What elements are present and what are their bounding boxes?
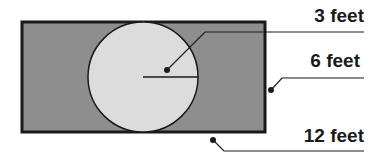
width-label: 6 feet <box>310 51 360 70</box>
width-leader-dot <box>268 87 274 93</box>
radius-label: 3 feet <box>314 6 364 25</box>
length-label: 12 feet <box>304 126 364 145</box>
length-leader-dot <box>210 137 216 143</box>
width-leader-line <box>271 78 364 90</box>
radius-leader-dot <box>164 67 170 73</box>
